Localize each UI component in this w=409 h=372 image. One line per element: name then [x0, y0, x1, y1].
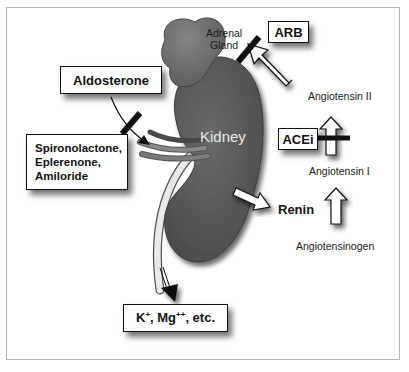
renin-label: Renin	[278, 202, 314, 217]
arb-box: ARB	[268, 21, 309, 43]
antagonist-amiloride: Amiloride	[35, 169, 122, 183]
angiotensinogen-arrow	[325, 188, 347, 224]
antagonists-box: Spironolactone, Eplerenone, Amiloride	[26, 134, 128, 190]
adrenal-gland-label: Adrenal Gland	[206, 27, 242, 51]
aldosterone-label: Aldosterone	[73, 73, 149, 88]
adrenal-label-line2: Gland	[206, 39, 242, 51]
angiotensin-ii-label: Angiotensin II	[308, 90, 372, 102]
antagonist-spironolactone: Spironolactone,	[35, 141, 122, 155]
acei-label: ACEi	[282, 132, 313, 147]
aldosterone-box: Aldosterone	[60, 66, 162, 94]
electrolytes-label: K+, Mg++, etc.	[136, 310, 215, 325]
acei-box: ACEi	[278, 128, 318, 150]
angiotensinogen-label: Angiotensinogen	[296, 240, 374, 252]
aldosterone-block-bar	[122, 113, 140, 134]
kidney-label: Kidney	[200, 128, 246, 145]
arb-label: ARB	[274, 25, 302, 40]
angiotensin-i-label: Angiotensin I	[309, 165, 370, 177]
arb-arrow	[248, 44, 292, 86]
antagonist-eplerenone: Eplerenone,	[35, 155, 122, 169]
adrenal-label-line1: Adrenal	[206, 27, 242, 39]
electrolytes-box: K+, Mg++, etc.	[123, 304, 228, 332]
